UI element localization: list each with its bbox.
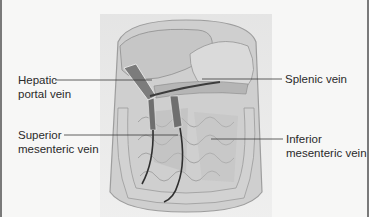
label-line-1: Splenic vein — [285, 72, 347, 86]
label-splenic-vein: Splenic vein — [285, 72, 347, 86]
label-line-1: Superior — [18, 128, 99, 142]
leader-lines — [0, 0, 369, 217]
label-hepatic-portal-vein: Hepatic portal vein — [18, 73, 71, 101]
label-line-2: mesenteric vein — [18, 142, 99, 156]
label-line-1: Inferior — [286, 132, 367, 146]
label-inferior-mesenteric-vein: Inferior mesenteric vein — [286, 132, 367, 160]
label-line-1: Hepatic — [18, 73, 71, 87]
label-superior-mesenteric-vein: Superior mesenteric vein — [18, 128, 99, 156]
label-line-2: mesenteric vein — [286, 146, 367, 160]
label-line-2: portal vein — [18, 87, 71, 101]
